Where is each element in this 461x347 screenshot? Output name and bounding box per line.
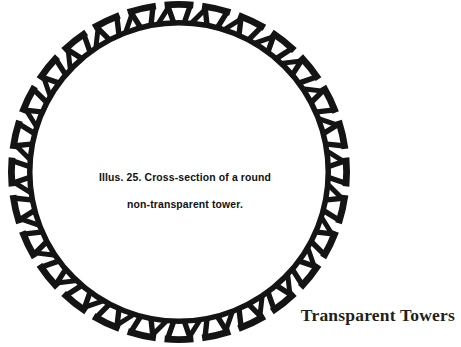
ring-stroke [330,161,345,166]
ring-stroke [117,310,119,325]
ring-stroke [151,320,153,335]
ring-stroke [218,13,226,26]
ring-stroke [117,18,119,33]
ring-stroke [317,232,332,234]
ring-stroke [239,310,241,325]
ring-stroke [159,7,169,23]
ring-stroke [185,7,190,22]
ring-stroke [25,232,40,234]
ring-stroke [249,28,260,39]
ring-stroke [324,125,337,133]
ring-stroke [300,77,315,82]
caption-line-2: non-transparent tower. [127,199,243,210]
ring-stroke [324,211,337,219]
ring-stroke [25,110,40,112]
ring-stroke [84,36,89,51]
ring-stroke [327,144,342,146]
figure-caption: Illus. 25. Cross-section of a round non-… [60,158,310,211]
ring-stroke [16,198,31,200]
ring-stroke [330,178,345,183]
ring-stroke [68,286,81,294]
ring-stroke [312,242,323,253]
plate-label: Transparent Towers [301,305,455,326]
ring-stroke [132,13,140,26]
ring-stroke [132,317,140,330]
ring-stroke [57,61,65,74]
ring-stroke [168,323,173,338]
ring-stroke [35,91,46,102]
ring-stroke [205,320,207,335]
ring-stroke [218,317,226,330]
ring-stroke [43,261,58,266]
ring-stroke [20,125,33,133]
ring-stroke [277,50,290,58]
ring-stroke [185,323,190,338]
ring-stroke [268,293,273,308]
ring-stroke [16,144,31,146]
ring-stroke [98,305,109,316]
ring-stroke [327,198,342,200]
ring-stroke [293,270,301,283]
ring-stroke [20,211,33,219]
ring-stroke [14,178,29,183]
ring-stroke [14,161,29,166]
illustration-page: Illus. 25. Cross-section of a round non-… [0,0,461,347]
caption-line-1: Illus. 25. Cross-section of a round [99,172,271,183]
ring-stroke [239,18,241,33]
ring-stroke [151,9,153,24]
ring-stroke [317,110,332,112]
ring-stroke [205,9,207,24]
